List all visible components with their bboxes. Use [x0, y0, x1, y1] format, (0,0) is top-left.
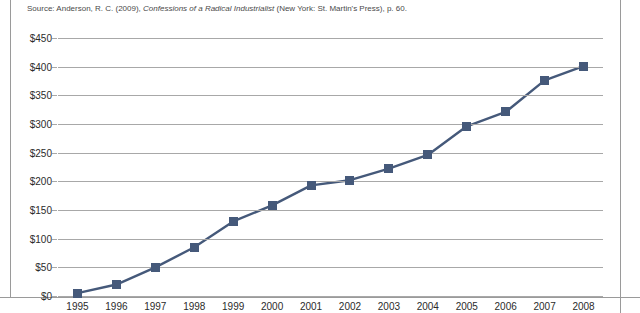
data-point-marker — [268, 201, 277, 210]
x-axis-label: 2008 — [572, 301, 594, 312]
gridline — [58, 267, 603, 268]
data-point-marker — [73, 289, 82, 298]
gridline — [58, 296, 603, 297]
data-point-marker — [423, 150, 432, 159]
x-axis-label: 1999 — [222, 301, 244, 312]
data-point-marker — [579, 62, 588, 71]
y-axis-label: $250 — [30, 147, 52, 158]
y-axis-tick — [52, 239, 57, 240]
x-axis-label: 2004 — [417, 301, 439, 312]
y-axis-label: $300 — [30, 119, 52, 130]
y-axis-tick — [52, 153, 57, 154]
gridline — [58, 38, 603, 39]
x-axis-label: 2002 — [339, 301, 361, 312]
y-axis-label: $350 — [30, 90, 52, 101]
gridline — [58, 239, 603, 240]
y-axis-tick — [52, 267, 57, 268]
x-axis-label: 1997 — [144, 301, 166, 312]
gridline — [58, 95, 603, 96]
y-axis-label: $200 — [30, 176, 52, 187]
plot-area: $450$400$350$300$250$200$150$100$50$0199… — [58, 38, 603, 296]
data-point-marker — [229, 217, 238, 226]
y-axis-tick — [52, 124, 57, 125]
data-point-marker — [345, 176, 354, 185]
data-point-marker — [190, 243, 199, 252]
source-citation: Source: Anderson, R. C. (2009), Confessi… — [27, 3, 587, 14]
x-axis-label: 2000 — [261, 301, 283, 312]
y-axis-tick — [52, 67, 57, 68]
series-line — [58, 38, 603, 296]
y-axis-tick — [52, 95, 57, 96]
data-point-marker — [540, 76, 549, 85]
x-axis-label: 2006 — [495, 301, 517, 312]
x-axis-label: 1995 — [66, 301, 88, 312]
page-bottom-rule — [0, 297, 640, 298]
x-axis-label: 2001 — [300, 301, 322, 312]
source-title: Confessions of a Radical Industrialist — [143, 4, 274, 13]
y-axis-label: $0 — [41, 291, 52, 302]
data-point-marker — [501, 107, 510, 116]
y-axis-tick — [52, 210, 57, 211]
gridline — [58, 153, 603, 154]
data-point-marker — [384, 164, 393, 173]
x-axis-label: 2003 — [378, 301, 400, 312]
gridline — [58, 210, 603, 211]
page-right-rule — [620, 0, 621, 313]
data-point-marker — [112, 280, 121, 289]
y-axis-tick — [52, 181, 57, 182]
y-axis-tick — [52, 38, 57, 39]
gridline — [58, 67, 603, 68]
y-axis-label: $100 — [30, 233, 52, 244]
y-axis-label: $50 — [35, 262, 52, 273]
gridline — [58, 181, 603, 182]
source-prefix: Source: Anderson, R. C. (2009), — [27, 4, 143, 13]
y-axis-label: $150 — [30, 205, 52, 216]
x-axis-label: 1996 — [105, 301, 127, 312]
line-chart: $450$400$350$300$250$200$150$100$50$0199… — [0, 20, 620, 295]
data-point-marker — [151, 263, 160, 272]
y-axis-tick — [52, 296, 57, 297]
y-axis-label: $450 — [30, 33, 52, 44]
data-point-marker — [462, 122, 471, 131]
x-axis-label: 1998 — [183, 301, 205, 312]
source-suffix: (New York: St. Martin's Press), p. 60. — [274, 4, 407, 13]
data-point-marker — [307, 181, 316, 190]
x-axis-label: 2005 — [456, 301, 478, 312]
x-axis-label: 2007 — [533, 301, 555, 312]
y-axis-label: $400 — [30, 61, 52, 72]
gridline — [58, 124, 603, 125]
